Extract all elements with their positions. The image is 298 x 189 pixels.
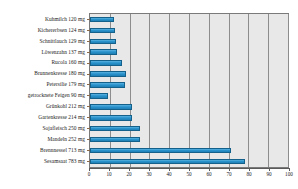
category-label: Kuhmilch 120 mg <box>0 14 88 25</box>
bar <box>90 126 140 132</box>
x-tick-label: 50 <box>186 172 191 177</box>
bar-row <box>90 47 288 58</box>
bar-row <box>90 80 288 91</box>
bar <box>90 137 140 143</box>
bar-row <box>90 112 288 123</box>
x-tick-label: 60 <box>206 172 211 177</box>
bar-row <box>90 58 288 69</box>
bar <box>90 104 132 110</box>
bar <box>90 115 132 121</box>
bar-row <box>90 101 288 112</box>
category-label: Sojafleisch 250 mg <box>0 123 88 134</box>
x-tick-label: 90 <box>266 172 271 177</box>
bar <box>90 71 126 77</box>
category-label: Petersilie 179 mg <box>0 80 88 91</box>
x-tick-label: 10 <box>106 172 111 177</box>
bar-row <box>90 145 288 156</box>
x-tick-label: 0 <box>88 172 91 177</box>
bar-row <box>90 69 288 80</box>
x-tick-label: 100 <box>285 172 293 177</box>
bar <box>90 28 115 34</box>
x-tick-label: 80 <box>246 172 251 177</box>
bar <box>90 159 245 165</box>
category-label: Grünkohl 212 mg <box>0 101 88 112</box>
bar <box>90 60 122 66</box>
category-label: Schnittlauch 129 mg <box>0 36 88 47</box>
category-label: Brunnenkresse 180 mg <box>0 69 88 80</box>
bar <box>90 148 231 154</box>
category-label-column: Kuhmilch 120 mgKichererbsen 124 mgSchnit… <box>0 14 88 167</box>
category-label: getrocknete Feigen 90 mg <box>0 90 88 101</box>
bar <box>90 17 114 23</box>
category-label: Löwenzahn 137 mg <box>0 47 88 58</box>
x-tick-label: 30 <box>146 172 151 177</box>
bar <box>90 82 125 88</box>
bar <box>90 39 116 45</box>
bar-row <box>90 36 288 47</box>
x-tick-label: 20 <box>126 172 131 177</box>
bar-row <box>90 123 288 134</box>
bars-layer <box>90 14 288 167</box>
bar <box>90 93 108 99</box>
category-label: Rucola 160 mg <box>0 58 88 69</box>
bar <box>90 49 117 55</box>
x-tick-label: 70 <box>226 172 231 177</box>
x-axis: 0102030405060708090100 <box>89 168 289 188</box>
category-label: Sesamsaat 783 mg <box>0 156 88 167</box>
category-label: Kichererbsen 124 mg <box>0 25 88 36</box>
category-label: Mandeln 252 mg <box>0 134 88 145</box>
bar-row <box>90 25 288 36</box>
bar-row <box>90 134 288 145</box>
category-label: Gartenkresse 214 mg <box>0 112 88 123</box>
bar-row <box>90 14 288 25</box>
calcium-content-bar-chart: Kuhmilch 120 mgKichererbsen 124 mgSchnit… <box>0 0 298 189</box>
bar-row <box>90 90 288 101</box>
gridline <box>288 14 289 167</box>
bar-row <box>90 156 288 167</box>
x-tick-label: 40 <box>166 172 171 177</box>
plot-area <box>89 13 289 168</box>
category-label: Brennnessel 713 mg <box>0 145 88 156</box>
